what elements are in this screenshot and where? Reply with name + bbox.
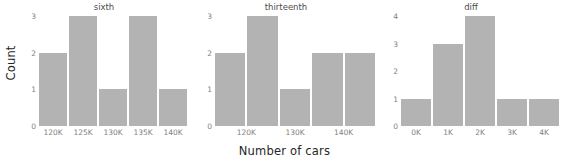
bar [279,89,311,126]
bar [432,44,464,127]
plot-area [38,16,188,126]
y-axis: 01234 [382,16,400,126]
y-tick-label: 1 [31,85,36,94]
bar-series [38,16,188,126]
bar-series [400,16,560,126]
y-tick-label: 1 [207,85,212,94]
x-tick-label: 140K [334,128,353,137]
x-tick-label: 130K [103,128,122,137]
plot-frame: 0123 [20,16,188,126]
y-tick-label: 3 [393,39,398,48]
y-tick-label: 3 [31,12,36,21]
bar [128,16,158,126]
bar [98,89,128,126]
x-tick-label: 135K [133,128,152,137]
bar [158,89,188,126]
panel-title: sixth [20,2,188,12]
histogram-figure: Count sixth0123120K125K130K135K140Kthirt… [0,0,569,164]
x-tick-label: 0K [411,128,421,137]
x-tick-label: 125K [73,128,92,137]
x-axis: 120K125K130K135K140K [38,128,188,142]
bar [38,53,68,126]
bar-series [214,16,376,126]
panel-title: diff [382,2,560,12]
x-tick-label: 2K [475,128,485,137]
y-tick-label: 2 [393,67,398,76]
x-tick-label: 140K [163,128,182,137]
x-axis: 0K1K2K3K4K [400,128,560,142]
x-tick-label: 120K [237,128,256,137]
facet-panel-sixth: sixth0123120K125K130K135K140K [20,0,188,144]
plot-frame: 01234 [382,16,560,126]
x-tick-label: 3K [507,128,517,137]
y-axis-label-text: Count [4,45,18,80]
plot-frame: 0123 [196,16,376,126]
y-axis-label: Count [2,0,20,126]
facet-panel-thirteenth: thirteenth0123120K130K140K [196,0,376,144]
y-tick-label: 0 [393,122,398,131]
bar [68,16,98,126]
bar [400,99,432,127]
panel-title: thirteenth [196,2,376,12]
facet-panel-diff: diff012340K1K2K3K4K [382,0,560,144]
plot-area [214,16,376,126]
x-tick-label: 1K [443,128,453,137]
y-tick-label: 4 [393,12,398,21]
bar [344,53,376,126]
x-axis: 120K130K140K [214,128,376,142]
bar [496,99,528,127]
y-tick-label: 1 [393,94,398,103]
bar [464,16,496,126]
y-tick-label: 2 [207,48,212,57]
x-tick-label: 130K [285,128,304,137]
y-axis: 0123 [196,16,214,126]
y-tick-label: 3 [207,12,212,21]
plot-area [400,16,560,126]
y-tick-label: 0 [207,122,212,131]
y-axis: 0123 [20,16,38,126]
y-tick-label: 0 [31,122,36,131]
x-tick-label: 120K [43,128,62,137]
x-tick-label: 4K [539,128,549,137]
x-axis-label: Number of cars [0,144,569,158]
y-tick-label: 2 [31,48,36,57]
bar [246,16,278,126]
bar [214,53,246,126]
bar [311,53,343,126]
bar [528,99,560,127]
